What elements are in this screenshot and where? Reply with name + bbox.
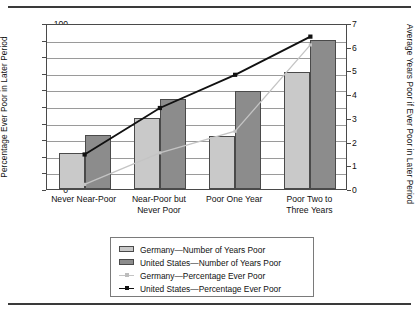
legend-key-bar — [119, 256, 135, 269]
line-de — [85, 45, 311, 184]
line-us — [85, 37, 311, 155]
bottom-rule — [8, 303, 411, 305]
y-tick-label-right: 2 — [352, 139, 372, 147]
marker-de-2 — [234, 130, 237, 133]
legend: Germany—Number of Years PoorUnited State… — [110, 237, 314, 297]
x-axis-label-line: Poor Two to — [264, 194, 354, 205]
legend-swatch-us — [119, 259, 134, 265]
marker-us-2 — [233, 73, 237, 77]
legend-label: United States—Percentage Ever Poor — [140, 284, 281, 294]
x-axis-label-line: Never Poor — [114, 205, 204, 216]
legend-label: Germany—Number of Years Poor — [140, 245, 265, 255]
legend-key-line — [119, 282, 135, 295]
figure: Percentage Ever Poor in Later Period Ave… — [0, 0, 419, 317]
y-tick-label-right: 6 — [352, 44, 372, 52]
legend-marker-de — [125, 273, 129, 277]
legend-item-0: Germany—Number of Years Poor — [119, 243, 313, 256]
y-axis-left-title: Percentage Ever Poor in Later Period — [0, 24, 10, 190]
y-tick-label-right: 4 — [352, 91, 372, 99]
marker-us-1 — [158, 106, 162, 110]
x-axis-label-line: Three Years — [264, 205, 354, 216]
y-axis-right-title: Average Years Poor if Ever Poor in Later… — [404, 24, 416, 190]
line-series-group — [47, 25, 348, 191]
marker-us-3 — [308, 35, 312, 39]
y-tick-label-right: 0 — [352, 186, 372, 194]
plot-area — [46, 24, 347, 190]
legend-item-1: United States—Number of Years Poor — [119, 256, 313, 269]
legend-label: Germany—Percentage Ever Poor — [140, 271, 265, 281]
legend-item-2: Germany—Percentage Ever Poor — [119, 269, 313, 282]
marker-de-0 — [83, 183, 86, 186]
top-rule — [8, 6, 411, 8]
y-tick-label-right: 1 — [352, 162, 372, 170]
legend-item-3: United States—Percentage Ever Poor — [119, 282, 313, 295]
y-tick-label-right: 3 — [352, 115, 372, 123]
y-tick-label-right: 7 — [352, 20, 372, 28]
legend-marker-us — [125, 286, 129, 290]
y-tick-mark-left — [42, 190, 46, 191]
legend-key-bar — [119, 243, 135, 256]
x-axis-label-3: Poor Two toThree Years — [264, 194, 354, 215]
marker-de-1 — [158, 151, 161, 154]
y-tick-label-right: 5 — [352, 67, 372, 75]
legend-swatch-de — [119, 246, 134, 252]
legend-label: United States—Number of Years Poor — [140, 258, 281, 268]
marker-us-0 — [83, 152, 87, 156]
marker-de-3 — [309, 43, 312, 46]
legend-key-line — [119, 269, 135, 282]
